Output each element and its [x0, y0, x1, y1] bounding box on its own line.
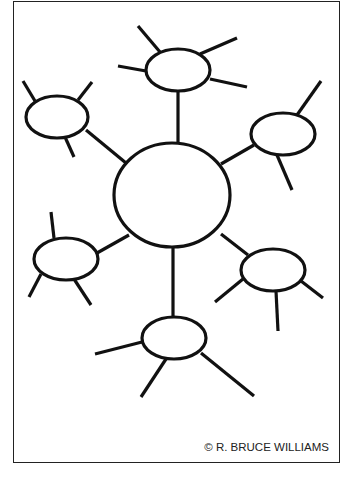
detail-line-bottom-2 — [141, 359, 166, 397]
detail-line-bottom-left-2 — [29, 274, 41, 297]
detail-line-top-right-2 — [277, 155, 292, 190]
detail-line-top-2 — [118, 66, 146, 71]
detail-line-top-4 — [210, 79, 247, 87]
oval-top-right — [251, 113, 315, 155]
connector-bottom-left — [97, 235, 129, 253]
detail-line-top-left-2 — [78, 82, 92, 100]
detail-line-top-left-1 — [23, 81, 35, 101]
oval-top — [146, 49, 210, 91]
oval-bottom-left — [34, 238, 98, 280]
spider-web-diagram — [0, 0, 353, 480]
oval-top-left — [26, 96, 88, 138]
copyright-credit: © R. BRUCE WILLIAMS — [204, 441, 329, 453]
connector-bottom-right — [221, 234, 248, 255]
oval-bottom — [142, 317, 206, 359]
detail-line-bottom-right-3 — [301, 281, 323, 298]
oval-bottom-right — [241, 249, 305, 291]
detail-line-top-3 — [200, 38, 237, 54]
detail-line-bottom-right-2 — [276, 291, 278, 331]
detail-line-top-left-3 — [65, 137, 74, 157]
detail-line-top-right-1 — [297, 81, 321, 115]
detail-line-bottom-left-3 — [74, 279, 91, 305]
connector-top-right — [221, 145, 254, 164]
detail-line-bottom-right-1 — [215, 279, 243, 302]
center-circle — [114, 143, 230, 247]
detail-line-bottom-left-1 — [51, 212, 54, 238]
connector-top-left — [86, 130, 126, 163]
detail-line-top-1 — [138, 26, 160, 52]
detail-line-bottom-3 — [201, 353, 254, 396]
detail-line-bottom-1 — [95, 342, 142, 354]
